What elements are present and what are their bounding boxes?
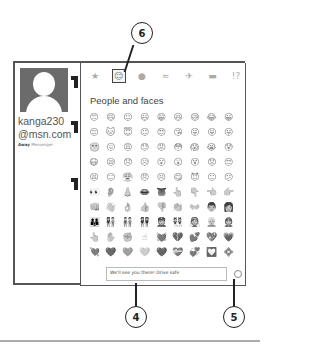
emoji-item[interactable]: 😁 bbox=[153, 110, 169, 125]
emoji-item[interactable]: 👬 bbox=[120, 215, 136, 230]
emoji-item[interactable]: 😂 bbox=[204, 110, 220, 125]
emoji-item[interactable]: 😉 bbox=[136, 125, 152, 140]
callout-4: 4 bbox=[125, 306, 147, 328]
emoji-item[interactable]: 👊 bbox=[86, 200, 102, 215]
emoji-item[interactable]: 👩 bbox=[220, 200, 236, 215]
emoji-item[interactable]: 👏 bbox=[170, 200, 186, 215]
emoji-item[interactable]: 😣 bbox=[153, 170, 169, 185]
emoji-item[interactable]: 👇 bbox=[187, 185, 203, 200]
callout-6: 6 bbox=[131, 22, 153, 44]
emoji-item[interactable]: 😀 bbox=[220, 110, 236, 125]
emoji-item[interactable]: 😖 bbox=[103, 140, 119, 155]
category-travel-icon[interactable]: ✈ bbox=[182, 69, 196, 83]
emoji-item[interactable]: 👪 bbox=[86, 215, 102, 230]
emoji-item[interactable]: 👨 bbox=[204, 200, 220, 215]
emoji-item[interactable]: 😊 bbox=[86, 110, 102, 125]
emoji-item[interactable]: 👈 bbox=[204, 185, 220, 200]
category-food-icon[interactable]: ≈ bbox=[159, 69, 173, 83]
emoji-item[interactable]: 😓 bbox=[136, 140, 152, 155]
emoji-item[interactable]: ☺ bbox=[120, 110, 136, 125]
emoji-item[interactable]: 😛 bbox=[220, 125, 236, 140]
emoji-item[interactable]: 👃 bbox=[120, 185, 136, 200]
emoji-item[interactable]: 😄 bbox=[103, 110, 119, 125]
emoji-item[interactable]: 💗 bbox=[220, 230, 236, 245]
emoji-item[interactable]: 😑 bbox=[103, 170, 119, 185]
emoji-item[interactable]: 🐱 bbox=[103, 125, 119, 140]
emoji-item[interactable]: 😪 bbox=[103, 155, 119, 170]
emoji-item[interactable]: 😮 bbox=[153, 155, 169, 170]
emoji-item[interactable]: 👀 bbox=[86, 185, 102, 200]
emoji-item[interactable]: 👫 bbox=[103, 215, 119, 230]
emoji-item[interactable]: 👱 bbox=[204, 215, 220, 230]
emoji-item[interactable]: 😈 bbox=[187, 170, 203, 185]
emoji-item[interactable]: ✋ bbox=[103, 230, 119, 245]
emoji-item[interactable]: 😤 bbox=[120, 170, 136, 185]
emoji-item[interactable]: 😞 bbox=[120, 155, 136, 170]
emoji-item[interactable]: 👐 bbox=[187, 200, 203, 215]
category-places-icon[interactable]: ● bbox=[135, 69, 149, 83]
emoji-button-icon[interactable] bbox=[234, 270, 242, 278]
emoji-item[interactable]: 👄 bbox=[136, 185, 152, 200]
emoji-item[interactable]: 👮 bbox=[153, 215, 169, 230]
emoji-item[interactable]: 👍 bbox=[136, 200, 152, 215]
emoji-item[interactable]: ✊ bbox=[120, 230, 136, 245]
emoji-item[interactable]: 😘 bbox=[170, 125, 186, 140]
emoji-item[interactable]: 👌 bbox=[120, 200, 136, 215]
emoji-item[interactable]: 💟 bbox=[204, 245, 220, 260]
emoji-item[interactable]: 👰 bbox=[187, 215, 203, 230]
emoji-item[interactable]: 😱 bbox=[187, 140, 203, 155]
emoji-item[interactable]: 😝 bbox=[204, 125, 220, 140]
emoji-item[interactable]: 👆 bbox=[86, 230, 102, 245]
emoji-item[interactable]: 💠 bbox=[220, 245, 236, 260]
emoji-item[interactable]: 😒 bbox=[220, 155, 236, 170]
emoji-item[interactable]: 👎 bbox=[153, 200, 169, 215]
emoji-item[interactable]: 👲 bbox=[220, 215, 236, 230]
category-favorites-icon[interactable]: ★ bbox=[88, 69, 102, 83]
emoji-item[interactable]: 😆 bbox=[170, 110, 186, 125]
emoji-item[interactable]: 💓 bbox=[153, 230, 169, 245]
emoji-item[interactable]: 😳 bbox=[170, 140, 186, 155]
emoji-item[interactable]: 💙 bbox=[103, 245, 119, 260]
emoji-item[interactable]: 😋 bbox=[170, 170, 186, 185]
emoji-item[interactable]: 😬 bbox=[86, 140, 102, 155]
emoji-item[interactable]: 👉 bbox=[220, 185, 236, 200]
emoji-item[interactable]: 💕 bbox=[187, 230, 203, 245]
emoji-item[interactable]: 💔 bbox=[170, 230, 186, 245]
emoji-item[interactable]: 😌 bbox=[86, 125, 102, 140]
emoji-item[interactable]: 👅 bbox=[153, 185, 169, 200]
emoji-item[interactable]: 💞 bbox=[187, 245, 203, 260]
emoji-item[interactable]: 😩 bbox=[120, 140, 136, 155]
emoji-item[interactable]: 💚 bbox=[120, 245, 136, 260]
emoji-item[interactable]: 😟 bbox=[204, 155, 220, 170]
category-nature-icon[interactable]: ▬ bbox=[206, 69, 220, 83]
emoji-item[interactable]: 😐 bbox=[204, 170, 220, 185]
emoji-item[interactable]: 😫 bbox=[86, 170, 102, 185]
emoji-item[interactable]: 😵 bbox=[187, 155, 203, 170]
emoji-item[interactable]: 😜 bbox=[187, 125, 203, 140]
emoji-item[interactable]: 👭 bbox=[136, 215, 152, 230]
emoji-item[interactable]: 😇 bbox=[120, 125, 136, 140]
emoji-item[interactable]: 😰 bbox=[220, 140, 236, 155]
emoji-item[interactable]: 👂 bbox=[103, 185, 119, 200]
category-symbols-icon[interactable]: !? bbox=[229, 69, 243, 83]
emoji-item[interactable]: 👯 bbox=[170, 215, 186, 230]
emoji-item[interactable]: 💘 bbox=[86, 245, 102, 260]
emoji-item[interactable]: 💛 bbox=[136, 245, 152, 260]
emoji-item[interactable]: 😥 bbox=[136, 155, 152, 170]
emoji-item[interactable]: 💖 bbox=[204, 230, 220, 245]
emoji-item[interactable]: 😭 bbox=[204, 140, 220, 155]
emoji-item[interactable]: 😷 bbox=[86, 155, 102, 170]
emoji-item[interactable]: 😡 bbox=[153, 140, 169, 155]
emoji-item[interactable]: 😃 bbox=[136, 110, 152, 125]
message-input[interactable]: We'll see you there! Drive safe bbox=[106, 267, 227, 281]
emoji-item[interactable]: 😍 bbox=[153, 125, 169, 140]
emoji-item[interactable]: 😕 bbox=[220, 170, 236, 185]
emoji-item[interactable]: 😅 bbox=[187, 110, 203, 125]
emoji-item[interactable]: 👆 bbox=[170, 185, 186, 200]
emoji-item[interactable]: 💜 bbox=[153, 245, 169, 260]
emoji-item[interactable]: 😠 bbox=[136, 170, 152, 185]
emoji-item[interactable]: ☝ bbox=[136, 230, 152, 245]
emoji-item[interactable]: 😲 bbox=[170, 155, 186, 170]
emoji-item[interactable]: 👋 bbox=[103, 200, 119, 215]
emoji-item[interactable]: 💝 bbox=[170, 245, 186, 260]
